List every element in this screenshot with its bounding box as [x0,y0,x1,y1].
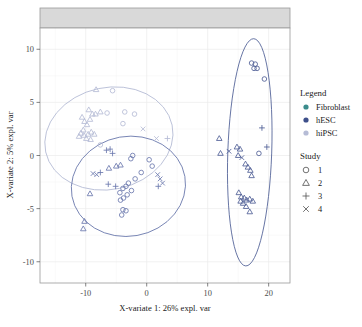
y-tick-label: -10 [23,258,34,267]
legend-title-group: Legend [300,88,327,98]
y-tick-label: 5 [30,98,34,107]
legend-label-study-4[interactable]: 4 [318,205,323,214]
plot-panel [35,28,290,283]
point-circle [303,167,309,173]
x-axis: -1001020 [80,283,273,298]
legend-swatch-fibroblast[interactable] [303,104,308,109]
x-tick-label: 0 [145,289,149,298]
legend-swatch-hesc[interactable] [303,117,308,122]
legend-label-hipsc[interactable]: hiPSC [316,129,338,138]
y-tick-label: 10 [26,45,34,54]
legend-swatch-hipsc[interactable] [303,130,308,135]
legend: LegendFibroblasthESChiPSCStudy1234 [300,88,351,214]
y-tick-label: 0 [30,152,34,161]
y-tick-label: -5 [27,205,34,214]
point-triangle [303,180,310,186]
legend-label-study-1[interactable]: 1 [318,166,322,175]
legend-label-fibroblast[interactable]: Fibroblast [316,103,351,112]
legend-label-hesc[interactable]: hESC [316,116,336,125]
x-axis-title: X-variate 1: 26% expl. var [119,303,211,313]
legend-label-study-2[interactable]: 2 [318,179,322,188]
y-axis: 1050-5-10 [23,45,40,267]
plot-svg: -1001020 1050-5-10 X-variate 1: 26% expl… [0,0,362,327]
y-axis-title: X-variate 2: 5% expl. var [5,111,15,198]
x-tick-label: -10 [80,289,91,298]
scatter-plot-figure: -1001020 1050-5-10 X-variate 1: 26% expl… [0,0,362,327]
x-tick-label: 10 [203,289,211,298]
facet-strip [40,8,290,28]
x-tick-label: 20 [264,289,272,298]
legend-label-study-3[interactable]: 3 [318,192,322,201]
legend-title-study: Study [300,151,321,161]
